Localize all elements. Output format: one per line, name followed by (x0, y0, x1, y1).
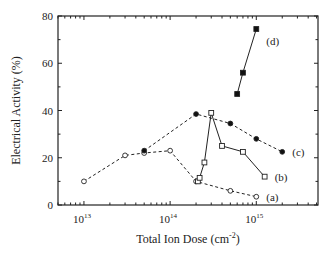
y-tick-label: 40 (42, 105, 54, 117)
series-label: (d) (266, 35, 279, 48)
y-tick-label: 20 (42, 152, 54, 164)
data-point-marker (254, 194, 259, 199)
data-point-marker (254, 27, 259, 32)
series-label: (a) (266, 191, 279, 204)
series-line (237, 29, 256, 94)
x-axis-label-exponent: -2 (229, 231, 236, 240)
x-tick-label: 1015 (245, 212, 263, 225)
data-point-marker (197, 175, 202, 180)
data-point-marker (202, 160, 207, 165)
data-point-marker (209, 110, 214, 115)
data-point-marker (254, 136, 259, 141)
series-d: (d) (235, 27, 280, 97)
data-point-marker (220, 144, 225, 149)
data-point-marker (228, 121, 233, 126)
y-tick-label: 0 (48, 199, 54, 211)
data-point-marker (262, 174, 267, 179)
data-point-marker (228, 188, 233, 193)
x-tick-label: 1014 (159, 212, 178, 225)
data-series: (a)(b)(c)(d) (82, 27, 305, 204)
series-label: (b) (275, 171, 288, 184)
data-point-marker (235, 92, 240, 97)
series-b: (b) (195, 110, 287, 183)
chart: (a)(b)(c)(d) 020406080101310141015 Elect… (0, 0, 332, 258)
data-point-marker (168, 148, 173, 153)
x-axis-label: Total Ion Dose (cm-2) (136, 231, 239, 246)
data-point-marker (241, 70, 246, 75)
data-point-marker (280, 149, 285, 154)
data-point-marker (82, 179, 87, 184)
series-a: (a) (82, 148, 279, 203)
x-tick-label: 1013 (73, 212, 92, 225)
series-c: (c) (142, 112, 305, 159)
y-axis-label: Electrical Activity (%) (9, 56, 23, 165)
data-point-marker (241, 149, 246, 154)
data-point-marker (194, 112, 199, 117)
chart-svg: (a)(b)(c)(d) 020406080101310141015 Elect… (0, 0, 332, 258)
x-axis-label-close: ) (236, 232, 240, 246)
x-axis-label-text: Total Ion Dose (cm (136, 232, 229, 246)
data-point-marker (123, 153, 128, 158)
y-tick-label: 60 (42, 57, 54, 69)
y-tick-label: 80 (42, 10, 54, 22)
data-point-marker (142, 148, 147, 153)
series-label: (c) (292, 146, 305, 159)
